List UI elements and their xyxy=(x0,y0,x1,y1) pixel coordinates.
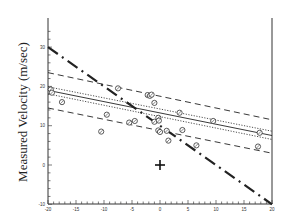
y-tick-label: 10 xyxy=(40,123,46,128)
x-tick-label: 10 xyxy=(213,207,219,212)
identity-line xyxy=(48,47,272,204)
scatter-chart: -20-15-10-505101520-100102030 Measured V… xyxy=(0,0,288,224)
plot-area: -20-15-10-505101520-100102030 xyxy=(0,0,288,224)
x-tick-label: -10 xyxy=(101,207,108,212)
x-tick-label: 15 xyxy=(241,207,247,212)
x-tick-label: 0 xyxy=(159,207,162,212)
x-tick-label: 20 xyxy=(269,207,275,212)
y-tick-label: 20 xyxy=(40,84,46,89)
x-tick-label: -5 xyxy=(130,207,134,212)
x-tick-label: 5 xyxy=(187,207,190,212)
y-tick-label: 30 xyxy=(40,45,46,50)
confidence-upper-line xyxy=(48,87,272,131)
y-axis-label: Measured Velocity (m/sec) xyxy=(15,37,31,187)
x-tick-label: -15 xyxy=(73,207,80,212)
y-tick-label: -10 xyxy=(38,202,45,207)
x-tick-label: -20 xyxy=(45,207,52,212)
y-tick-label: 0 xyxy=(42,163,45,168)
